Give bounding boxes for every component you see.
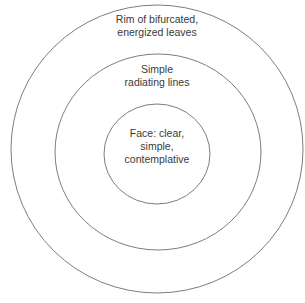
inner-ring-label-line-3: contemplative — [107, 153, 207, 166]
inner-ring-label-line-2: simple, — [107, 140, 207, 153]
inner-ring-label-line-1: Face: clear, — [107, 127, 207, 140]
middle-ring-label-line-1: Simple — [107, 63, 207, 76]
outer-ring-label-line-1: Rim of bifurcated, — [107, 13, 207, 26]
concentric-circles-diagram: Rim of bifurcated, energized leaves Simp… — [0, 0, 305, 303]
middle-ring-label: Simple radiating lines — [107, 63, 207, 89]
outer-ring-label-line-2: energized leaves — [107, 26, 207, 39]
outer-ring-label: Rim of bifurcated, energized leaves — [107, 13, 207, 39]
middle-ring-label-line-2: radiating lines — [107, 76, 207, 89]
inner-ring-label: Face: clear, simple, contemplative — [107, 127, 207, 166]
